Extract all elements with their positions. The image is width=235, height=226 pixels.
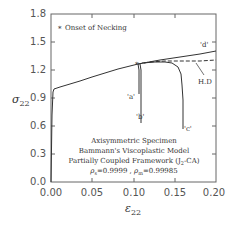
svg-text:Partially Coupled Framework (J: Partially Coupled Framework (J2-CA) bbox=[69, 157, 200, 166]
label-hd: H.D bbox=[198, 78, 212, 86]
stress-strain-chart: 0.0 0.3 0.6 0.9 1.2 1.5 1.8 0.00 0.05 0.… bbox=[0, 0, 235, 226]
svg-text:0.3: 0.3 bbox=[30, 148, 46, 159]
star-marker-icon: * bbox=[58, 25, 62, 33]
label-b: 'b' bbox=[136, 113, 144, 121]
annotation-block: Axisymmetric Specimen Bammann's Viscopla… bbox=[69, 137, 200, 176]
svg-text:0.15: 0.15 bbox=[164, 187, 186, 198]
y-axis-label: σ22 bbox=[12, 93, 30, 108]
x-axis-label: ε22 bbox=[125, 202, 141, 217]
svg-text:0.20: 0.20 bbox=[203, 187, 225, 198]
svg-text:1.8: 1.8 bbox=[30, 8, 46, 19]
x-tick-labels: 0.00 0.05 0.10 0.15 0.20 bbox=[40, 187, 225, 198]
svg-text:Bammann's Viscoplastic Model: Bammann's Viscoplastic Model bbox=[79, 147, 190, 155]
svg-text:0.0: 0.0 bbox=[30, 176, 46, 187]
svg-text:1.2: 1.2 bbox=[30, 64, 46, 75]
svg-text:0.10: 0.10 bbox=[123, 187, 145, 198]
svg-text:ρs=0.9999 , ρm=0.99985: ρs=0.9999 , ρm=0.99985 bbox=[89, 167, 177, 176]
svg-text:Axisymmetric Specimen: Axisymmetric Specimen bbox=[90, 137, 177, 145]
legend: * Onset of Necking bbox=[58, 24, 127, 33]
svg-text:1.5: 1.5 bbox=[30, 36, 46, 47]
y-tick-labels: 0.0 0.3 0.6 0.9 1.2 1.5 1.8 bbox=[30, 8, 46, 187]
label-d: 'd' bbox=[200, 41, 208, 49]
label-c: 'c' bbox=[184, 125, 192, 133]
onset-necking-marker: * bbox=[135, 61, 139, 69]
hd-pointer bbox=[196, 63, 204, 75]
svg-text:0.05: 0.05 bbox=[81, 187, 103, 198]
svg-text:0.00: 0.00 bbox=[40, 187, 62, 198]
svg-text:0.9: 0.9 bbox=[30, 92, 46, 103]
svg-text:0.6: 0.6 bbox=[30, 120, 46, 131]
svg-text:Onset of Necking: Onset of Necking bbox=[65, 24, 127, 32]
curve-c bbox=[142, 62, 183, 129]
label-a: 'a' bbox=[127, 93, 135, 101]
